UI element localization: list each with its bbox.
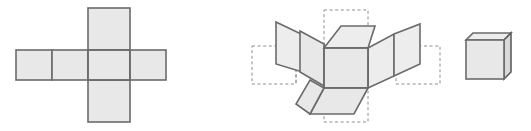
net-face-bottom [88, 80, 130, 122]
panel-flat-net [16, 8, 166, 122]
folded-face-back [324, 26, 375, 48]
folded-face-right [368, 34, 394, 88]
folded-face-left-inner [300, 31, 324, 86]
folded-face-center [324, 48, 368, 88]
folded-face-right-outer [394, 24, 420, 76]
net-face-left-far [16, 50, 52, 80]
panel-folded-cube [466, 33, 511, 79]
net-face-center [88, 50, 130, 80]
net-face-left-near [52, 50, 88, 80]
net-face-right [130, 50, 166, 80]
cube-face-right [504, 33, 511, 79]
cube-face-front [466, 40, 504, 79]
figure-canvas [0, 0, 531, 131]
net-face-top [88, 8, 130, 50]
panel-partially-folded-net [252, 10, 440, 122]
cube-folding-figure [0, 0, 531, 131]
